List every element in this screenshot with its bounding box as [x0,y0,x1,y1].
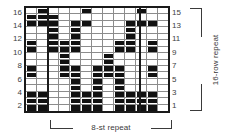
row-number: 12 [13,33,22,46]
row-number: 9 [172,46,176,59]
row-repeat-bracket-gap [200,37,203,84]
knitting-chart: 161412108642 15131197531 16-row repeat 8… [0,0,225,139]
chart-cell-empty [48,105,59,111]
stitch-repeat-label: 8-st repeat [50,123,172,132]
chart-cell-filled [125,105,136,111]
row-number-column-left: 161412108642 [2,6,22,113]
row-number: 11 [172,33,180,46]
row-number: 2 [18,100,22,113]
chart-row [26,105,168,111]
chart-cell-filled [136,105,147,111]
row-repeat-label-wrap: 16-row repeat [205,0,225,119]
chart-cell-filled [81,105,92,111]
chart-cell-filled [114,105,125,111]
chart-grid [24,6,170,113]
row-number: 13 [172,19,181,32]
chart-grid-inner [26,8,168,111]
chart-cell-empty [158,105,168,111]
row-number: 15 [172,6,181,19]
row-number-column-right: 15131197531 [172,6,192,113]
row-number: 7 [172,60,176,73]
row-number: 4 [18,86,22,99]
chart-cell-filled [92,105,103,111]
row-number: 8 [18,60,22,73]
chart-cell-filled [37,105,48,111]
row-number: 6 [18,73,22,86]
row-number: 10 [13,46,22,59]
row-repeat-bracket [190,8,202,111]
chart-cell-empty [59,105,70,111]
row-number: 3 [172,86,176,99]
row-number: 1 [172,100,176,113]
chart-cell-filled [26,105,37,111]
chart-cell-filled [147,105,158,111]
row-number: 14 [13,19,22,32]
row-number: 16 [13,6,22,19]
row-repeat-label: 16-row repeat [211,34,220,85]
chart-cell-empty [103,105,114,111]
chart-cell-filled [70,105,81,111]
row-number: 5 [172,73,176,86]
